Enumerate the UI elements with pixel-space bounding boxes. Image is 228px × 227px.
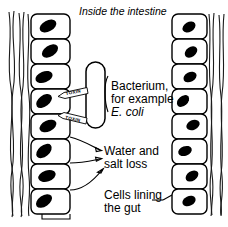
epithelial-cell <box>31 189 70 214</box>
epithelial-cell <box>172 64 207 89</box>
bacterium-label-line1: Bacterium, <box>111 79 168 93</box>
bacterium-label-species: E. coli <box>111 105 144 119</box>
epithelial-cell <box>31 139 70 164</box>
bacterium-label-line2: for example <box>111 92 174 106</box>
bottom-left-bracket <box>42 214 70 219</box>
water-salt-loss-arrows <box>70 137 103 190</box>
epithelial-cell <box>31 39 70 64</box>
epithelial-cell <box>172 89 207 114</box>
water-salt-label-line2: salt loss <box>104 157 147 171</box>
diagram-title: Inside the intestine <box>79 5 167 17</box>
diagram-canvas: TOXIN TOXIN Inside t <box>0 0 228 227</box>
epithelial-cell <box>172 139 207 164</box>
epithelial-cell <box>172 114 207 139</box>
right-cell-column <box>172 14 207 214</box>
epithelial-cell <box>31 14 70 39</box>
epithelial-cell <box>31 164 70 189</box>
left-tissue-fibers <box>9 11 30 217</box>
cells-lining-label-line2: the gut <box>104 201 141 215</box>
intestine-diagram: TOXIN TOXIN Inside t <box>0 0 228 227</box>
epithelial-cell <box>31 64 70 89</box>
epithelial-cell <box>172 164 207 189</box>
water-salt-label-line1: Water and <box>104 144 159 158</box>
cells-lining-label-line1: Cells lining <box>104 188 162 202</box>
epithelial-cell <box>172 14 207 39</box>
bacterium-capsule <box>86 62 105 128</box>
epithelial-cell <box>172 39 207 64</box>
epithelial-cell <box>172 189 207 214</box>
right-tissue-fibers <box>209 13 224 216</box>
